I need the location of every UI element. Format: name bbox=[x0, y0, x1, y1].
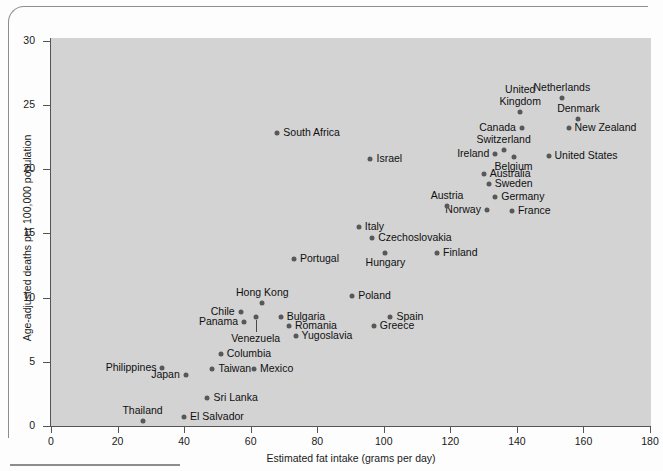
y-tick bbox=[43, 426, 51, 427]
scatter-point[interactable] bbox=[486, 182, 491, 187]
point-label: Taiwan bbox=[218, 363, 251, 375]
point-label: Thailand bbox=[122, 404, 162, 416]
point-label: Yugoslavia bbox=[302, 330, 353, 342]
point-label: Sweden bbox=[495, 178, 533, 190]
x-tick bbox=[184, 426, 185, 433]
x-tick bbox=[317, 426, 318, 433]
scatter-point[interactable] bbox=[383, 250, 388, 255]
point-label: Israel bbox=[376, 153, 402, 165]
x-tick bbox=[583, 426, 584, 433]
y-tick bbox=[43, 105, 51, 106]
point-label: Sri Lanka bbox=[213, 392, 257, 404]
x-tick-label: 40 bbox=[164, 435, 204, 447]
scatter-point[interactable] bbox=[183, 372, 188, 377]
point-label: Hungary bbox=[366, 257, 406, 269]
point-label: Austria bbox=[431, 190, 464, 202]
point-label: Panama bbox=[199, 316, 238, 328]
x-tick-label: 20 bbox=[98, 435, 138, 447]
scatter-point[interactable] bbox=[238, 309, 243, 314]
scatter-point[interactable] bbox=[370, 236, 375, 241]
point-label: Venezuela bbox=[231, 333, 280, 345]
scatter-point[interactable] bbox=[278, 314, 283, 319]
y-tick bbox=[43, 41, 51, 42]
point-label: Poland bbox=[358, 290, 391, 302]
x-axis-line bbox=[50, 426, 651, 427]
x-axis-label: Estimated fat intake (grams per day) bbox=[231, 452, 471, 464]
scatter-point[interactable] bbox=[546, 154, 551, 159]
point-label: Germany bbox=[501, 191, 544, 203]
x-tick bbox=[650, 426, 651, 433]
point-label: Norway bbox=[445, 204, 481, 216]
scatter-point[interactable] bbox=[205, 395, 210, 400]
scatter-point[interactable] bbox=[371, 323, 376, 328]
x-tick bbox=[51, 426, 52, 433]
scatter-point[interactable] bbox=[493, 151, 498, 156]
scatter-point[interactable] bbox=[218, 352, 223, 357]
scatter-point[interactable] bbox=[559, 96, 564, 101]
scatter-point[interactable] bbox=[484, 208, 489, 213]
y-tick bbox=[43, 233, 51, 234]
point-label: Ireland bbox=[457, 148, 489, 160]
point-label: Switzerland bbox=[476, 133, 530, 145]
y-tick bbox=[43, 362, 51, 363]
y-tick bbox=[43, 298, 51, 299]
point-label: Greece bbox=[380, 320, 414, 332]
point-label: Denmark bbox=[557, 102, 600, 114]
scatter-point[interactable] bbox=[518, 110, 523, 115]
scatter-point[interactable] bbox=[253, 314, 258, 319]
scatter-point[interactable] bbox=[275, 131, 280, 136]
x-tick bbox=[384, 426, 385, 433]
point-label: South Africa bbox=[283, 127, 340, 139]
label-leader-line bbox=[256, 320, 257, 332]
point-label: Portugal bbox=[300, 253, 339, 265]
scatter-point[interactable] bbox=[291, 256, 296, 261]
scatter-point[interactable] bbox=[435, 250, 440, 255]
point-label: Czechoslovakia bbox=[378, 232, 452, 244]
x-tick bbox=[450, 426, 451, 433]
point-label: Hong Kong bbox=[236, 286, 289, 298]
scatter-point[interactable] bbox=[519, 125, 524, 130]
scatter-point[interactable] bbox=[210, 367, 215, 372]
scatter-point[interactable] bbox=[160, 366, 165, 371]
point-label: United States bbox=[555, 150, 618, 162]
x-tick-label: 140 bbox=[497, 435, 537, 447]
scatter-point[interactable] bbox=[252, 367, 257, 372]
x-tick-label: 100 bbox=[364, 435, 404, 447]
scatter-point[interactable] bbox=[493, 195, 498, 200]
y-tick bbox=[43, 169, 51, 170]
x-tick-label: 160 bbox=[563, 435, 603, 447]
page-bottom-rule bbox=[10, 464, 180, 466]
point-label: France bbox=[518, 205, 551, 217]
scatter-point[interactable] bbox=[260, 300, 265, 305]
scatter-point[interactable] bbox=[242, 319, 247, 324]
point-label: Finland bbox=[443, 247, 477, 259]
scatter-point[interactable] bbox=[286, 323, 291, 328]
scatter-point[interactable] bbox=[445, 204, 450, 209]
scatter-point[interactable] bbox=[481, 172, 486, 177]
scatter-point[interactable] bbox=[509, 209, 514, 214]
scatter-point[interactable] bbox=[566, 125, 571, 130]
x-tick-label: 180 bbox=[630, 435, 663, 447]
scatter-point[interactable] bbox=[140, 418, 145, 423]
scatter-point[interactable] bbox=[501, 147, 506, 152]
scatter-point[interactable] bbox=[350, 294, 355, 299]
x-tick-label: 120 bbox=[430, 435, 470, 447]
x-tick-label: 60 bbox=[231, 435, 271, 447]
scatter-point[interactable] bbox=[368, 156, 373, 161]
y-axis-label: Age-adjusted deaths per 100,000 populati… bbox=[21, 108, 33, 368]
scatter-point[interactable] bbox=[182, 415, 187, 420]
scatter-point[interactable] bbox=[511, 155, 516, 160]
point-label: New Zealand bbox=[575, 122, 637, 134]
point-label: El Salvador bbox=[190, 411, 244, 423]
x-tick-label: 0 bbox=[31, 435, 71, 447]
point-label: Philippines bbox=[106, 362, 157, 374]
x-tick bbox=[517, 426, 518, 433]
scatter-point[interactable] bbox=[293, 334, 298, 339]
x-tick bbox=[118, 426, 119, 433]
x-tick-label: 80 bbox=[297, 435, 337, 447]
y-tick-label: 30 bbox=[5, 34, 35, 46]
y-tick-label: 0 bbox=[5, 419, 35, 431]
scatter-point[interactable] bbox=[356, 224, 361, 229]
x-tick bbox=[251, 426, 252, 433]
figure-canvas: 051015202530 020406080100120140160180 Ag… bbox=[0, 0, 663, 471]
